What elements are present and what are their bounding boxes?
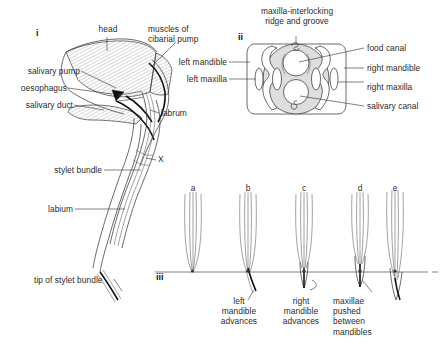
stage-key-a: a: [178, 183, 208, 193]
stage-b: [240, 192, 257, 293]
stage-key-b: b: [233, 183, 263, 193]
stage-key-e: e: [380, 183, 410, 193]
figure-canvas: i: [0, 0, 445, 344]
stage-key-c: c: [289, 183, 319, 193]
stage-a: [185, 192, 202, 273]
stage-e: [387, 190, 404, 300]
caption-b-left-mandible-advances: left mandible advances: [210, 296, 268, 327]
stage-key-d: d: [345, 183, 375, 193]
stage-c: [296, 192, 313, 288]
stage-d: [352, 192, 369, 287]
caption-d-maxillae-pushed-between-mandibles: maxillae pushed between mandibles: [333, 296, 405, 337]
panel-iii-artwork: [0, 0, 445, 344]
caption-c-right-mandible-advances: right mandible advances: [272, 296, 330, 327]
